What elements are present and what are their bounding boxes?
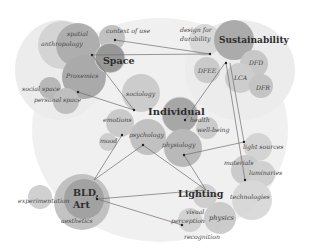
knowledge-cluster-diagram: Space Sustainability Individual BLD, Art… [0, 0, 311, 252]
topic-dfd: DFD [248, 59, 263, 66]
topic-sociology: sociology [126, 90, 156, 98]
topic-dfr: DFR [255, 84, 270, 91]
topic-context-of-use: context of use [106, 27, 150, 35]
topic-lca: LCA [233, 74, 248, 81]
diagram-svg: Space Sustainability Individual BLD, Art… [0, 0, 311, 252]
topic-social-space: social space [22, 85, 60, 93]
topic-aesthetics: aesthetics [61, 217, 93, 224]
topic-perception: perception [171, 217, 205, 225]
topic-luminaries: luminaries [249, 169, 282, 176]
topic-anthropology: anthropology [41, 40, 83, 48]
hub-label-art: Art [72, 199, 90, 210]
topic-personal-space: personal space [34, 96, 81, 104]
topic-dfee: DFEE [197, 67, 217, 74]
topic-health: health [190, 116, 210, 123]
topic-durability: durability [180, 35, 211, 43]
topic-design-for: design for [180, 26, 213, 34]
topic-physics: physics [209, 214, 234, 222]
topic-mood: mood [100, 137, 117, 144]
topic-light-sources: light sources [243, 143, 284, 151]
topic-proxemics: Proxemics [65, 72, 98, 79]
hub-label-sustainability: Sustainability [219, 35, 290, 45]
topic-psychology: psychology [129, 131, 164, 139]
topic-recognition: recognition [184, 233, 220, 241]
hub-label-bld: BLD, [73, 187, 99, 199]
topic-spatial: spatial [67, 30, 88, 38]
hub-label-lighting: Lighting [178, 188, 224, 199]
hub-label-space: Space [103, 55, 135, 66]
topic-technologies: technologies [230, 193, 270, 201]
topic-visual: visual [186, 208, 204, 215]
topic-emotions: emotions [103, 116, 132, 123]
topic-physiology: physiology [162, 141, 196, 149]
topic-materials: materials [224, 159, 253, 166]
topic-well-being: well-being [197, 126, 230, 134]
topic-experimentation: experimentation [18, 197, 70, 205]
